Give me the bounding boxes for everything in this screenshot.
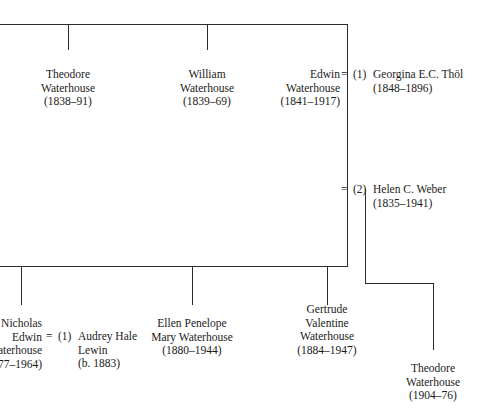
person-nicholas-edwin-waterhouse: Nicholas Edwin Waterhouse (1877–1964) <box>0 317 42 371</box>
person-surname-line: Waterhouse <box>383 376 483 390</box>
drop-to-gertrude-valentine <box>327 266 328 305</box>
marriage-ordinal: (1) <box>353 68 366 82</box>
spouse-audrey-hale-lewin: Audrey Hale Lewin (b. 1883) <box>78 330 137 371</box>
person-dates-line: (1877–1964) <box>0 358 42 372</box>
sibling-bar-generation-2 <box>0 266 348 267</box>
person-gertrude-valentine-waterhouse: Gertrude Valentine Waterhouse (1884–1947… <box>277 303 377 357</box>
drop-to-theodore-1838 <box>68 24 69 50</box>
sibling-bar-generation-1 <box>0 24 348 25</box>
spouse-name-line: Georgina E.C. Thöl <box>373 68 463 82</box>
person-theodore-waterhouse-1838: Theodore Waterhouse (1838–91) <box>8 68 128 109</box>
person-dates-line: (1841–1917) <box>243 95 340 109</box>
spouse-dates-line: (1835–1941) <box>373 197 446 211</box>
drop-to-ellen-penelope <box>192 266 193 305</box>
person-middlename-line: Valentine <box>277 317 377 331</box>
spouse-georgina-thol: Georgina E.C. Thöl (1848–1896) <box>373 68 463 95</box>
marriage-equals-sign: = <box>341 183 348 197</box>
person-surname-line: Mary Waterhouse <box>132 331 252 345</box>
person-middlename-line: Edwin <box>0 331 42 345</box>
spouse-name-line: Helen C. Weber <box>373 183 446 197</box>
person-ellen-penelope-mary-waterhouse: Ellen Penelope Mary Waterhouse (1880–194… <box>132 317 252 358</box>
second-marriage-issue-elbow <box>365 283 434 284</box>
marriage-equals-sign: = <box>46 330 53 344</box>
person-dates-line: (1838–91) <box>8 95 128 109</box>
person-dates-line: (1884–1947) <box>277 344 377 358</box>
person-surname-line: Waterhouse <box>277 330 377 344</box>
drop-to-edwin-1841 <box>347 24 348 50</box>
person-theodore-waterhouse-1904: Theodore Waterhouse (1904–76) <box>383 362 483 403</box>
drop-to-nicholas-edwin <box>21 266 22 305</box>
person-surname-line: Waterhouse <box>0 344 42 358</box>
spouse-name-line: Audrey Hale <box>78 330 137 344</box>
second-marriage-issue-drop <box>365 189 366 283</box>
family-tree-chart: Theodore Waterhouse (1838–91) William Wa… <box>0 0 497 408</box>
person-dates-line: (1880–1944) <box>132 344 252 358</box>
edwin-descent-spine <box>347 50 348 266</box>
person-name-line: Nicholas <box>0 317 42 331</box>
marriage-equals-sign: = <box>341 68 348 82</box>
person-surname-line: Waterhouse <box>243 82 340 96</box>
spouse-helen-weber: Helen C. Weber (1835–1941) <box>373 183 446 210</box>
person-name-line: Gertrude <box>277 303 377 317</box>
spouse-dates-line: (1848–1896) <box>373 82 463 96</box>
person-edwin-waterhouse-1841: Edwin Waterhouse (1841–1917) <box>243 68 340 109</box>
person-name-line: Theodore <box>383 362 483 376</box>
marriage-ordinal: (1) <box>58 330 71 344</box>
person-name-line: Theodore <box>8 68 128 82</box>
person-name-line: Ellen Penelope <box>132 317 252 331</box>
spouse-surname-line: Lewin <box>78 344 137 358</box>
person-dates-line: (1904–76) <box>383 389 483 403</box>
drop-to-theodore-1904 <box>433 283 434 350</box>
drop-to-william-1839 <box>207 24 208 50</box>
spouse-dates-line: (b. 1883) <box>78 357 137 371</box>
person-surname-line: Waterhouse <box>8 82 128 96</box>
person-name-line: Edwin <box>243 68 340 82</box>
